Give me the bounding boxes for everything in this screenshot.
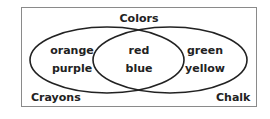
crayons-item-orange: orange bbox=[50, 44, 94, 57]
both-item-red: red bbox=[129, 44, 150, 57]
diagram-title: Colors bbox=[120, 12, 159, 25]
crayons-ellipse bbox=[30, 27, 184, 93]
chalk-set-label: Chalk bbox=[216, 91, 250, 104]
crayons-set-label: Crayons bbox=[31, 91, 81, 104]
chalk-item-green: green bbox=[187, 44, 223, 57]
chalk-item-yellow: yellow bbox=[185, 62, 225, 75]
chalk-ellipse bbox=[93, 27, 247, 93]
both-item-blue: blue bbox=[126, 62, 153, 75]
crayons-item-purple: purple bbox=[52, 62, 92, 75]
